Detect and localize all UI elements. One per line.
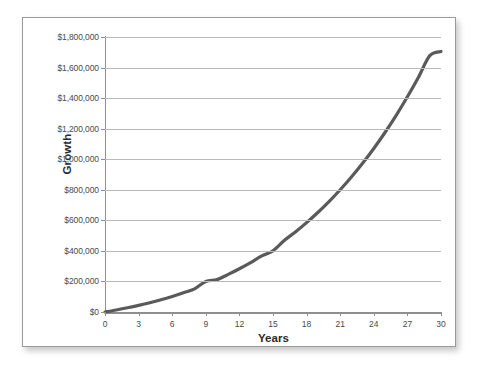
- y-tick-label: $1,400,000: [57, 93, 99, 103]
- x-tick-mark: [441, 312, 442, 316]
- y-tick-label: $0: [90, 307, 99, 317]
- growth-line-series: [105, 37, 441, 312]
- y-tick-label: $400,000: [64, 246, 99, 256]
- y-tick-label: $1,200,000: [57, 124, 99, 134]
- chart-screenshot: Growth $0$200,000$400,000$600,000$800,00…: [0, 0, 480, 375]
- y-tick-label: $800,000: [64, 185, 99, 195]
- gridline: [105, 281, 441, 282]
- chart-card: Growth $0$200,000$400,000$600,000$800,00…: [22, 17, 456, 347]
- y-tick-mark: [101, 190, 105, 191]
- x-tick-mark: [239, 312, 240, 316]
- x-tick-label: 18: [302, 319, 311, 329]
- x-tick-label: 24: [369, 319, 378, 329]
- y-tick-label: $1,000,000: [57, 154, 99, 164]
- x-tick-mark: [206, 312, 207, 316]
- y-tick-mark: [101, 37, 105, 38]
- gridline: [105, 98, 441, 99]
- y-tick-mark: [101, 220, 105, 221]
- x-axis-title: Years: [105, 332, 442, 344]
- x-tick-label: 30: [436, 319, 445, 329]
- y-tick-label: $1,600,000: [57, 63, 99, 73]
- plot-area: $0$200,000$400,000$600,000$800,000$1,000…: [105, 37, 441, 312]
- x-tick-mark: [273, 312, 274, 316]
- x-tick-mark: [374, 312, 375, 316]
- x-tick-mark: [340, 312, 341, 316]
- gridline: [105, 190, 441, 191]
- x-tick-label: 3: [136, 319, 141, 329]
- x-tick-label: 12: [235, 319, 244, 329]
- gridline: [105, 68, 441, 69]
- y-tick-mark: [101, 159, 105, 160]
- gridline: [105, 129, 441, 130]
- x-tick-mark: [172, 312, 173, 316]
- x-tick-label: 6: [170, 319, 175, 329]
- x-tick-label: 9: [203, 319, 208, 329]
- gridline: [105, 251, 441, 252]
- x-tick-label: 0: [103, 319, 108, 329]
- x-tick-mark: [139, 312, 140, 316]
- x-tick-mark: [407, 312, 408, 316]
- x-tick-label: 27: [403, 319, 412, 329]
- y-tick-mark: [101, 251, 105, 252]
- x-tick-label: 21: [335, 319, 344, 329]
- gridline: [105, 220, 441, 221]
- y-tick-label: $600,000: [64, 215, 99, 225]
- gridline: [105, 159, 441, 160]
- y-tick-mark: [101, 129, 105, 130]
- x-tick-mark: [307, 312, 308, 316]
- x-tick-mark: [105, 312, 106, 316]
- gridline: [105, 37, 441, 38]
- x-tick-label: 15: [268, 319, 277, 329]
- y-tick-label: $1,800,000: [57, 32, 99, 42]
- y-tick-mark: [101, 98, 105, 99]
- y-tick-label: $200,000: [64, 276, 99, 286]
- y-tick-mark: [101, 281, 105, 282]
- y-tick-mark: [101, 68, 105, 69]
